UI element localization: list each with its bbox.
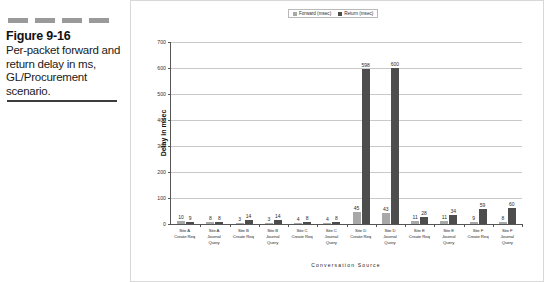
- bar-slot: 8: [206, 42, 214, 224]
- y-axis-tick-label: 600: [157, 65, 166, 71]
- bar-slot: 11: [411, 42, 419, 224]
- y-axis-tick-label: 400: [157, 117, 166, 123]
- bar[interactable]: [479, 209, 487, 224]
- bar[interactable]: [440, 221, 448, 224]
- bar-slot: 28: [420, 42, 428, 224]
- bar-group: 959: [464, 42, 493, 224]
- y-axis-tick-label: 300: [157, 143, 166, 149]
- bar-group: 314: [230, 42, 259, 224]
- bar-value-label: 59: [480, 202, 486, 208]
- bar-value-label: 9: [189, 215, 192, 221]
- y-axis-tick-label: 700: [157, 39, 166, 45]
- bar-slot: 59: [479, 42, 487, 224]
- x-axis-tick-label: Site B Create Req: [229, 228, 258, 247]
- legend-item-forward: Forward (msec): [293, 11, 331, 16]
- x-axis-tick-label: Site E Journal Query: [434, 228, 463, 247]
- bar-value-label: 28: [421, 210, 427, 216]
- bar-slot: 9: [470, 42, 478, 224]
- bar-slot: 34: [449, 42, 457, 224]
- figure-number: Figure 9-16: [6, 29, 124, 43]
- bar-series-layer: 109883143144848455984360011281134959860: [171, 42, 522, 224]
- bar-value-label: 8: [335, 215, 338, 221]
- x-axis-tick-label: Site C Journal Query: [317, 228, 346, 247]
- bar-slot: 4: [323, 42, 331, 224]
- bar-group: 43600: [376, 42, 405, 224]
- legend-swatch-return-icon: [338, 12, 342, 16]
- bar-group: 48: [317, 42, 346, 224]
- bar-slot: 3: [236, 42, 244, 224]
- bar[interactable]: [274, 220, 282, 224]
- bar[interactable]: [362, 69, 370, 224]
- y-axis-tick-label: 100: [157, 195, 166, 201]
- bar-slot: 14: [274, 42, 282, 224]
- bar-value-label: 598: [361, 62, 369, 68]
- bar-slot: 8: [303, 42, 311, 224]
- x-axis-tick-label: Site D Journal Query: [375, 228, 404, 247]
- bar[interactable]: [411, 221, 419, 224]
- bar-value-label: 4: [297, 216, 300, 222]
- bar-value-label: 8: [501, 215, 504, 221]
- bar-slot: 598: [362, 42, 370, 224]
- bar-value-label: 14: [246, 213, 252, 219]
- bar-value-label: 4: [326, 216, 329, 222]
- bar-slot: 8: [215, 42, 223, 224]
- bar[interactable]: [186, 222, 194, 224]
- x-axis-tick-label: Site D Create Req: [346, 228, 375, 247]
- bar[interactable]: [382, 213, 390, 224]
- legend-item-return: Return (msec): [338, 11, 373, 16]
- bar-slot: 600: [391, 42, 399, 224]
- bar[interactable]: [470, 222, 478, 224]
- bar[interactable]: [332, 222, 340, 224]
- bar-group: 45598: [347, 42, 376, 224]
- bar-value-label: 3: [267, 216, 270, 222]
- decorative-dash-row: [8, 18, 124, 23]
- y-axis-tick: [168, 224, 171, 225]
- bar-value-label: 600: [391, 61, 399, 67]
- x-axis-tick-label: Site C Create Req: [287, 228, 316, 247]
- bar[interactable]: [206, 222, 214, 224]
- chart-legend: Forward (msec) Return (msec): [288, 9, 378, 18]
- x-axis-tick-label: Site A Journal Query: [199, 228, 228, 247]
- bar-value-label: 60: [509, 201, 515, 207]
- dash-mark: [35, 18, 55, 23]
- bar[interactable]: [391, 68, 399, 224]
- bar-slot: 43: [382, 42, 390, 224]
- x-axis-tick-label: Site F Create Req: [463, 228, 492, 247]
- bar-group: 860: [493, 42, 522, 224]
- bar[interactable]: [449, 215, 457, 224]
- bar-value-label: 34: [451, 208, 457, 214]
- bar-value-label: 3: [238, 216, 241, 222]
- bar[interactable]: [303, 222, 311, 224]
- caption-divider: [7, 100, 117, 102]
- legend-label-forward: Forward (msec): [299, 11, 331, 16]
- bar[interactable]: [177, 221, 185, 224]
- x-axis-tick-label: Site B Journal Query: [258, 228, 287, 247]
- bar-value-label: 43: [383, 206, 389, 212]
- bar[interactable]: [508, 208, 516, 224]
- bar-slot: 4: [294, 42, 302, 224]
- bar[interactable]: [323, 223, 331, 224]
- bar[interactable]: [353, 212, 361, 224]
- bar-value-label: 11: [413, 214, 418, 220]
- x-axis-tick-label: Site A Create Req: [170, 228, 199, 247]
- y-axis-tick-label: 0: [163, 221, 166, 227]
- dash-mark: [8, 18, 28, 23]
- bar-slot: 45: [353, 42, 361, 224]
- bar[interactable]: [265, 223, 273, 224]
- bar[interactable]: [499, 222, 507, 224]
- bar-value-label: 8: [306, 215, 309, 221]
- bar-slot: 8: [499, 42, 507, 224]
- x-axis-title: Conversation Source: [170, 262, 522, 268]
- bar-value-label: 8: [218, 215, 221, 221]
- bar-group: 1128: [405, 42, 434, 224]
- bar-value-label: 8: [209, 215, 212, 221]
- bar-value-label: 9: [472, 215, 475, 221]
- bar[interactable]: [215, 222, 223, 224]
- bar[interactable]: [294, 223, 302, 224]
- bar-slot: 60: [508, 42, 516, 224]
- bar[interactable]: [420, 217, 428, 224]
- bar-group: 109: [171, 42, 200, 224]
- bar[interactable]: [236, 223, 244, 224]
- bar[interactable]: [245, 220, 253, 224]
- bar-slot: 11: [440, 42, 448, 224]
